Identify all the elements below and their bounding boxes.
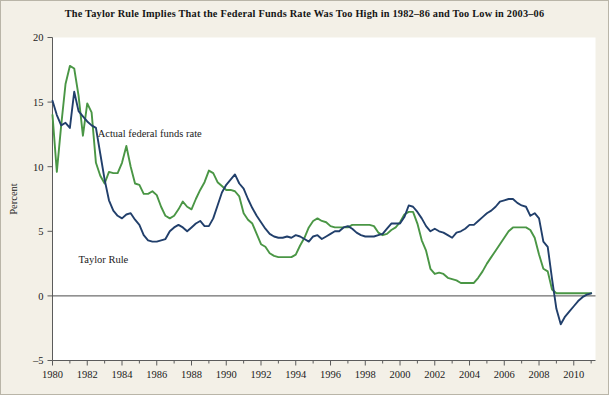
x-tick-label: 2010 xyxy=(563,369,584,380)
x-tick-label: 1982 xyxy=(77,369,98,380)
y-axis-ticks: –505101520 xyxy=(32,32,53,366)
x-tick-label: 2002 xyxy=(424,369,445,380)
x-tick-label: 1980 xyxy=(42,369,63,380)
x-tick-label: 2006 xyxy=(494,369,515,380)
y-tick-label: 15 xyxy=(33,97,44,108)
x-tick-label: 1988 xyxy=(181,369,202,380)
x-tick-label: 1986 xyxy=(146,369,167,380)
y-axis-label: Percent xyxy=(8,183,19,215)
x-tick-label: 1984 xyxy=(112,369,134,380)
actual-series-label: Actual federal funds rate xyxy=(98,128,202,139)
chart-plot-area: –505101520 19801982198419861988199019921… xyxy=(0,0,609,395)
y-tick-label: 10 xyxy=(33,162,44,173)
x-tick-label: 2008 xyxy=(529,369,550,380)
x-tick-label: 1996 xyxy=(320,369,341,380)
x-tick-label: 1990 xyxy=(216,369,237,380)
y-tick-label: 5 xyxy=(38,226,43,237)
chart-figure: The Taylor Rule Implies That the Federal… xyxy=(0,0,609,395)
x-tick-label: 2004 xyxy=(459,369,481,380)
x-tick-label: 2000 xyxy=(390,369,411,380)
x-tick-label: 1998 xyxy=(355,369,376,380)
y-tick-label: 0 xyxy=(38,291,43,302)
x-axis-ticks: 1980198219841986198819901992199419961998… xyxy=(42,361,591,380)
y-tick-label: 20 xyxy=(33,32,44,43)
x-tick-label: 1992 xyxy=(251,369,272,380)
x-tick-label: 1994 xyxy=(285,369,307,380)
taylor-series-label: Taylor Rule xyxy=(79,254,129,265)
y-tick-label: –5 xyxy=(32,355,44,366)
